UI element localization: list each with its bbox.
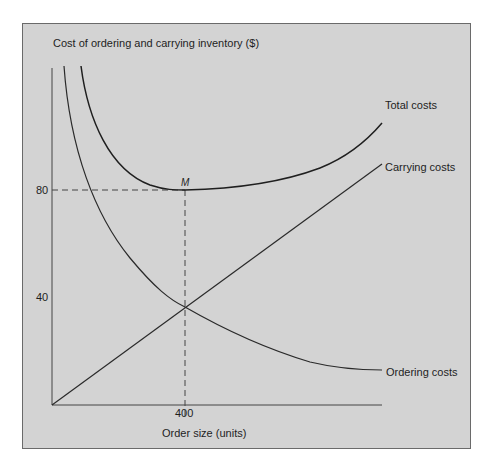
y-tick-80: 80 (36, 184, 48, 196)
y-tick-40: 40 (36, 291, 48, 303)
carrying-costs-line (52, 164, 382, 405)
x-tick-400: 400 (175, 407, 193, 419)
chart-plot (0, 0, 492, 471)
series-label-total-costs: Total costs (385, 99, 437, 111)
x-axis-title: Order size (units) (162, 427, 246, 439)
series-label-carrying-costs: Carrying costs (385, 161, 455, 173)
y-axis-title: Cost of ordering and carrying inventory … (53, 37, 259, 49)
point-m-label: M (181, 177, 189, 188)
series-label-ordering-costs: Ordering costs (386, 366, 458, 378)
ordering-costs-curve (64, 66, 382, 370)
total-costs-curve (81, 66, 382, 190)
